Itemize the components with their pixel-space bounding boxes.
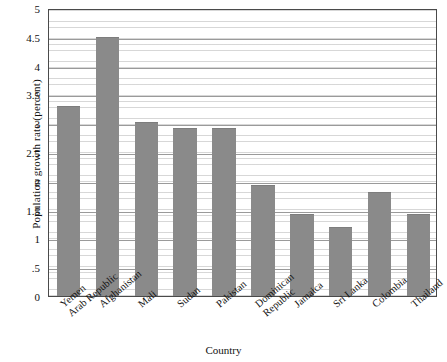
y-tick-label: .5 xyxy=(32,262,40,274)
bar xyxy=(173,128,196,296)
bar xyxy=(368,192,391,296)
bar xyxy=(96,37,119,296)
y-tick-label: 3 xyxy=(35,118,41,130)
bar xyxy=(57,106,80,296)
y-tick-label: 1.5 xyxy=(26,205,40,217)
bar xyxy=(407,214,430,296)
y-tick-label: 4.5 xyxy=(26,32,40,44)
plot-area xyxy=(48,9,437,297)
bar xyxy=(251,185,274,296)
bar xyxy=(329,227,352,296)
x-axis-title: Country xyxy=(0,344,447,356)
y-tick-label: 1 xyxy=(35,233,41,245)
y-tick-label: 3.5 xyxy=(26,89,40,101)
y-axis-tick-labels: 0.511.522.533.544.55 xyxy=(0,0,44,362)
chart-page: Population growth rate (percent) 0.511.5… xyxy=(0,0,447,362)
y-tick-label: 5 xyxy=(35,3,41,15)
bar-series xyxy=(49,10,436,296)
bar xyxy=(135,122,158,296)
y-tick-label: 2 xyxy=(35,176,41,188)
bar xyxy=(290,214,313,296)
y-tick-label: 4 xyxy=(35,61,41,73)
y-tick-label: 2.5 xyxy=(26,147,40,159)
bar xyxy=(212,128,235,296)
y-tick-label: 0 xyxy=(35,291,41,303)
